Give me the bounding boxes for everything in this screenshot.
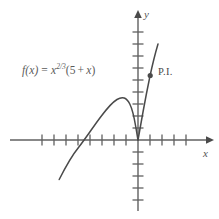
graph-figure: y x f(x)=x2/3(5+x) P.I. — [0, 0, 219, 219]
point-of-inflection-marker — [148, 73, 153, 78]
graph-canvas — [0, 0, 219, 219]
y-axis-group — [133, 10, 144, 211]
function-curve-group — [59, 44, 158, 180]
x-axis-group — [10, 135, 214, 146]
y-axis-arrowhead — [134, 10, 142, 18]
x-axis-arrowhead — [206, 136, 214, 144]
